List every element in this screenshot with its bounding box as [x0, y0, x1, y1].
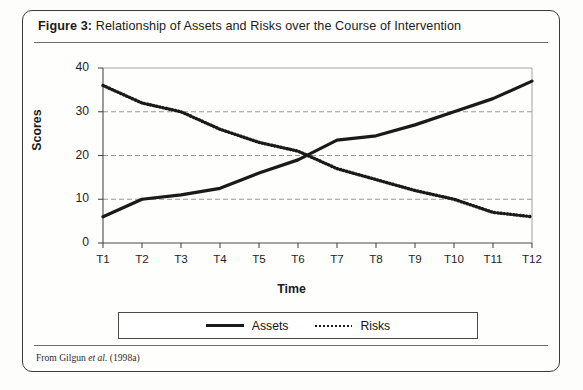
- source-italic: et al.: [88, 352, 107, 363]
- legend-label-risks: Risks: [360, 319, 390, 333]
- source-suffix: (1998a): [107, 352, 139, 363]
- legend-swatch-solid-icon: [206, 324, 244, 327]
- legend-swatch-dotted-icon: [314, 324, 352, 328]
- series-line-assets: [103, 81, 532, 217]
- legend-label-assets: Assets: [252, 319, 289, 333]
- figure-source: From Gilgun et al. (1998a): [36, 352, 140, 363]
- footer-divider: [34, 345, 548, 346]
- legend: Assets Risks: [118, 312, 478, 339]
- figure-container: Figure 3: Relationship of Assets and Ris…: [0, 0, 583, 390]
- legend-entry-assets: Assets: [206, 319, 289, 333]
- legend-entry-risks: Risks: [314, 319, 390, 333]
- source-prefix: From Gilgun: [36, 352, 88, 363]
